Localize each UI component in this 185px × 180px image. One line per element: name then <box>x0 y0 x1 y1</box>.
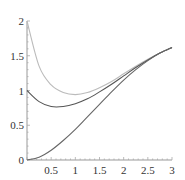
axes <box>27 21 172 160</box>
x-tick-label: 2 <box>121 164 127 176</box>
y-tick-label: 0 <box>19 154 25 166</box>
y-tick-label: 1 <box>19 85 25 97</box>
y-tick-label: 1.5 <box>10 50 24 62</box>
y-tick-label: 0.5 <box>10 119 24 131</box>
x-tick-label: 3 <box>169 164 175 176</box>
x-tick-label: 1 <box>73 164 79 176</box>
line-chart: 0.511.522.5300.511.52 <box>0 0 185 180</box>
x-tick-label: 0.5 <box>44 164 58 176</box>
series-line-1 <box>27 47 172 107</box>
series-group <box>27 21 172 160</box>
x-tick-label: 2.5 <box>141 164 155 176</box>
x-tick-label: 1.5 <box>93 164 107 176</box>
series-line-2 <box>27 47 172 160</box>
y-tick-label: 2 <box>19 15 25 27</box>
